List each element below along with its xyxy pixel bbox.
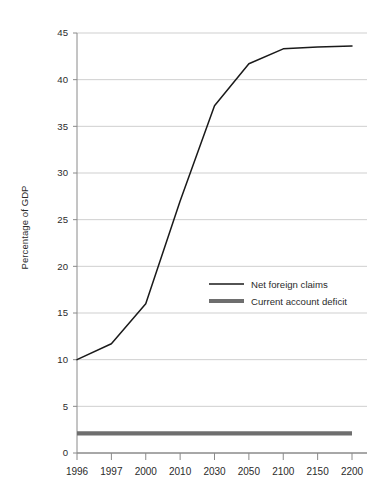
y-tick-label-5: 5 [63, 401, 68, 412]
legend-label-current-account-deficit: Current account deficit [251, 296, 347, 307]
x-tick-labels-group: 199619972000201020302050210021502200 [66, 466, 364, 477]
chart-canvas: 051015202530354045 199619972000201020302… [0, 0, 385, 500]
x-tick-label-2100: 2100 [272, 466, 295, 477]
gridlines-group [73, 33, 367, 453]
y-tick-label-0: 0 [63, 447, 68, 458]
y-tick-label-20: 20 [57, 261, 68, 272]
x-tick-label-1997: 1997 [100, 466, 123, 477]
chart-figure: Percentage of GDP 051015202530354045 199… [0, 0, 385, 500]
x-tick-label-2000: 2000 [135, 466, 158, 477]
y-tick-label-30: 30 [57, 167, 68, 178]
x-tick-marks-group [77, 453, 352, 460]
y-tick-label-15: 15 [57, 307, 68, 318]
x-tick-label-2030: 2030 [203, 466, 226, 477]
y-tick-label-35: 35 [57, 121, 68, 132]
legend-label-net-foreign-claims: Net foreign claims [251, 279, 328, 290]
x-tick-label-2010: 2010 [169, 466, 192, 477]
y-tick-label-25: 25 [57, 214, 68, 225]
y-tick-label-10: 10 [57, 354, 68, 365]
y-tick-labels-group: 051015202530354045 [57, 27, 68, 458]
x-tick-label-1996: 1996 [66, 466, 89, 477]
y-tick-label-45: 45 [57, 27, 68, 38]
legend: Net foreign claims Current account defic… [209, 279, 347, 307]
y-tick-label-40: 40 [57, 74, 68, 85]
x-tick-label-2150: 2150 [307, 466, 330, 477]
x-tick-label-2050: 2050 [238, 466, 261, 477]
x-tick-label-2200: 2200 [341, 466, 364, 477]
